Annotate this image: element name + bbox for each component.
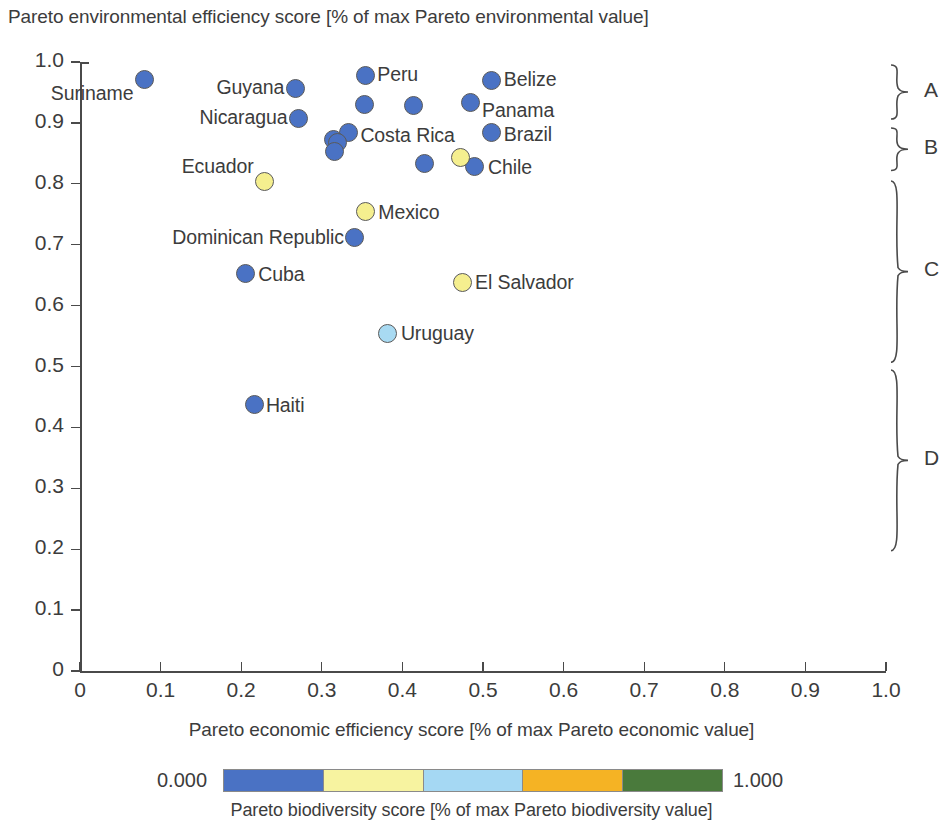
y-tick-label: 0.4: [6, 413, 64, 437]
x-axis-title: Pareto economic efficiency score [% of m…: [0, 719, 943, 741]
data-point[interactable]: [461, 93, 480, 112]
colorbar-max-label: 1.000: [733, 769, 783, 792]
data-point-label: Haiti: [266, 394, 305, 417]
y-tick-mark: [71, 366, 80, 367]
y-tick-label: 0.9: [6, 109, 64, 133]
data-point[interactable]: [135, 70, 154, 89]
brace-d: [886, 369, 918, 552]
brace-label-c: C: [924, 257, 939, 281]
data-point[interactable]: [286, 79, 305, 98]
data-point[interactable]: [325, 142, 344, 161]
brace-label-a: A: [924, 78, 938, 102]
y-tick-label: 0.6: [6, 292, 64, 316]
y-tick-mark: [71, 609, 80, 610]
data-point-label: Costa Rica: [360, 124, 454, 147]
data-point[interactable]: [345, 228, 364, 247]
brace-c: [886, 180, 918, 363]
y-tick-label: 0.1: [6, 596, 64, 620]
data-point-label: El Salvador: [475, 271, 574, 294]
data-point[interactable]: [236, 264, 255, 283]
data-point[interactable]: [356, 66, 375, 85]
data-point-label: Panama: [482, 99, 554, 122]
y-tick-mark: [71, 488, 80, 489]
data-point[interactable]: [482, 123, 501, 142]
scatter-plot-figure: Pareto environmental efficiency score [%…: [0, 0, 943, 831]
y-tick-mark: [71, 427, 80, 428]
x-tick-label: 0.9: [775, 678, 835, 702]
colorbar-min-label: 0.000: [157, 769, 207, 792]
data-point[interactable]: [451, 148, 470, 167]
data-point-label: Dominican Republic: [172, 226, 344, 249]
x-tick-label: 0.2: [211, 678, 271, 702]
colorbar-title: Pareto biodiversity score [% of max Pare…: [0, 800, 943, 821]
colorbar-band-1: [224, 770, 323, 791]
x-tick-label: 0: [50, 678, 110, 702]
x-tick-label: 1.0: [856, 678, 916, 702]
data-point[interactable]: [289, 109, 308, 128]
y-tick-label: 0.2: [6, 535, 64, 559]
data-point-label: Ecuador: [182, 155, 254, 178]
data-point[interactable]: [356, 202, 375, 221]
data-point-label: Peru: [377, 63, 418, 86]
y-tick-mark: [71, 244, 80, 245]
data-point-label: Guyana: [217, 76, 285, 99]
data-point-label: Suriname: [51, 82, 134, 105]
x-tick-label: 0.4: [372, 678, 432, 702]
x-tick-label: 0.7: [614, 678, 674, 702]
data-point-label: Nicaragua: [199, 106, 287, 129]
y-tick-label: 0.5: [6, 353, 64, 377]
data-point[interactable]: [378, 324, 397, 343]
brace-label-b: B: [924, 135, 938, 159]
biodiversity-colorbar: [223, 769, 723, 792]
x-tick-label: 0.8: [695, 678, 755, 702]
y-tick-label: 0.8: [6, 170, 64, 194]
x-tick-label: 0.6: [534, 678, 594, 702]
data-point[interactable]: [453, 273, 472, 292]
colorbar-band-2: [323, 770, 423, 791]
data-point[interactable]: [355, 95, 374, 114]
data-point-label: Brazil: [504, 123, 552, 146]
y-tick-label: 0.3: [6, 474, 64, 498]
data-point[interactable]: [255, 172, 274, 191]
data-point[interactable]: [245, 395, 264, 414]
x-tick-label: 0.5: [453, 678, 513, 702]
y-tick-mark: [71, 122, 80, 123]
data-point-label: Uruguay: [401, 322, 474, 345]
data-point[interactable]: [415, 154, 434, 173]
y-tick-label: 0.7: [6, 231, 64, 255]
data-point[interactable]: [404, 96, 423, 115]
data-point[interactable]: [482, 71, 501, 90]
y-tick-mark: [71, 183, 80, 184]
brace-a: [886, 64, 918, 120]
brace-b: [886, 127, 918, 171]
plot-area: SurinameGuyanaPeruBelizeNicaraguaPanamaC…: [80, 62, 886, 672]
data-point-label: Chile: [488, 156, 532, 179]
colorbar-band-5: [622, 770, 722, 791]
brace-label-d: D: [924, 446, 939, 470]
y-tick-mark: [71, 61, 80, 62]
x-tick-label: 0.3: [292, 678, 352, 702]
y-axis-title: Pareto environmental efficiency score [%…: [8, 6, 649, 28]
y-tick-label: 1.0: [6, 48, 64, 72]
data-point-label: Mexico: [378, 201, 439, 224]
data-point-label: Belize: [504, 68, 557, 91]
y-tick-mark: [71, 549, 80, 550]
data-point-label: Cuba: [258, 263, 304, 286]
colorbar-band-4: [522, 770, 622, 791]
colorbar-band-3: [423, 770, 523, 791]
y-tick-mark: [71, 305, 80, 306]
x-tick-label: 0.1: [131, 678, 191, 702]
